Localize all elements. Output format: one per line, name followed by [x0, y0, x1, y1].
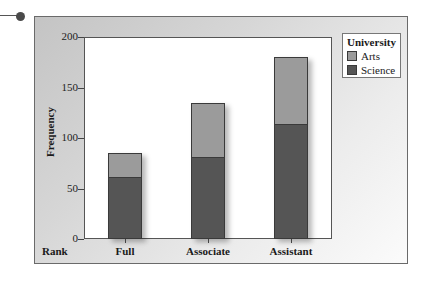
- bar-segment-arts: [192, 104, 224, 158]
- y-tick-label: 200: [62, 31, 79, 42]
- bar-assistant: [274, 57, 308, 239]
- bar-segment-science: [275, 125, 307, 238]
- y-tick: [78, 189, 84, 190]
- bar-segment-science: [109, 178, 141, 238]
- legend-label-arts: Arts: [361, 49, 380, 63]
- connector-dot-icon: [16, 12, 25, 21]
- bar-segment-arts: [275, 58, 307, 125]
- legend: University Arts Science: [342, 33, 401, 78]
- x-tick: [125, 239, 126, 243]
- x-axis-label: Rank: [42, 245, 68, 257]
- y-tick-label: 150: [62, 82, 79, 93]
- y-tick: [78, 239, 84, 240]
- bar-segment-science: [192, 158, 224, 238]
- y-tick-label: 50: [67, 183, 78, 194]
- legend-item-arts: Arts: [347, 49, 396, 63]
- y-axis-label: Frequency: [44, 107, 56, 157]
- legend-item-science: Science: [347, 63, 396, 77]
- x-tick: [291, 239, 292, 243]
- x-category-label: Assistant: [270, 245, 313, 257]
- x-category-label: Associate: [186, 245, 230, 257]
- y-tick: [78, 138, 84, 139]
- x-tick: [208, 239, 209, 243]
- legend-swatch-arts-icon: [347, 51, 357, 61]
- legend-swatch-science-icon: [347, 65, 357, 75]
- y-tick-label: 0: [73, 233, 79, 244]
- connector-line: [0, 15, 17, 16]
- y-tick-label: 100: [62, 132, 79, 143]
- y-tick: [78, 88, 84, 89]
- bar-segment-arts: [109, 154, 141, 178]
- bar-full: [108, 153, 142, 239]
- x-category-label: Full: [116, 245, 135, 257]
- y-tick: [78, 37, 84, 38]
- legend-title: University: [347, 36, 396, 49]
- bar-associate: [191, 103, 225, 239]
- legend-label-science: Science: [361, 63, 395, 77]
